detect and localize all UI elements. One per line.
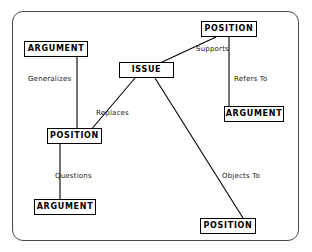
node-argument-right[interactable]: ARGUMENT (224, 106, 284, 122)
node-argument-bottom[interactable]: ARGUMENT (34, 199, 96, 215)
node-position-bottom[interactable]: POSITION (200, 218, 256, 234)
node-argument-topleft[interactable]: ARGUMENT (24, 41, 88, 57)
edge-replaces-line (90, 78, 135, 131)
edge-replaces-label: Replaces (96, 110, 129, 117)
node-issue[interactable]: ISSUE (119, 62, 174, 78)
node-position-left[interactable]: POSITION (47, 128, 102, 144)
edge-refers-to-label: Refers To (234, 76, 268, 83)
edge-questions-label: Questions (55, 173, 92, 180)
node-position-top[interactable]: POSITION (201, 21, 257, 37)
diagram-canvas: POSITIONARGUMENTISSUEARGUMENTPOSITIONARG… (0, 0, 312, 252)
edge-supports-label: Supports (196, 46, 229, 53)
edge-generalizes-label: Generalizes (28, 76, 71, 83)
edge-objects-to-label: Objects To (222, 173, 260, 180)
edge-objects-to-line (155, 78, 243, 218)
